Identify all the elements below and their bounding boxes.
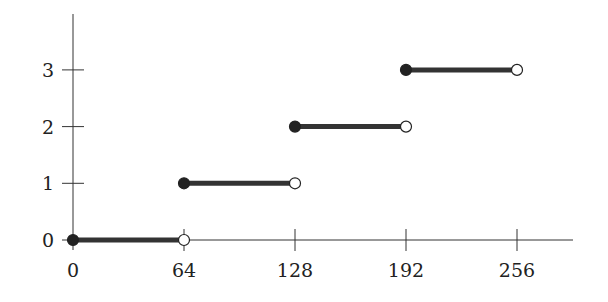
step-segment	[179, 178, 301, 189]
step-segments	[68, 64, 523, 245]
y-tick-label: 0	[42, 229, 54, 251]
x-tick-label: 64	[172, 259, 196, 281]
closed-endpoint-marker	[290, 121, 301, 132]
x-tick-label: 256	[499, 259, 535, 281]
axes	[62, 14, 573, 250]
step-segment	[290, 121, 412, 132]
step-segment	[401, 64, 523, 75]
closed-endpoint-marker	[401, 64, 412, 75]
y-tick-label: 1	[42, 172, 54, 194]
open-endpoint-marker	[290, 178, 301, 189]
open-endpoint-marker	[401, 121, 412, 132]
step-segment	[68, 235, 190, 246]
open-endpoint-marker	[512, 64, 523, 75]
closed-endpoint-marker	[68, 235, 79, 246]
closed-endpoint-marker	[179, 178, 190, 189]
open-endpoint-marker	[179, 235, 190, 246]
ticks: 0641281922560123	[42, 59, 535, 281]
step-function-chart: 0641281922560123	[0, 0, 608, 302]
y-tick-label: 2	[42, 116, 54, 138]
x-tick-label: 0	[67, 259, 79, 281]
x-tick-label: 192	[388, 259, 424, 281]
y-tick-label: 3	[42, 59, 54, 81]
x-tick-label: 128	[277, 259, 313, 281]
